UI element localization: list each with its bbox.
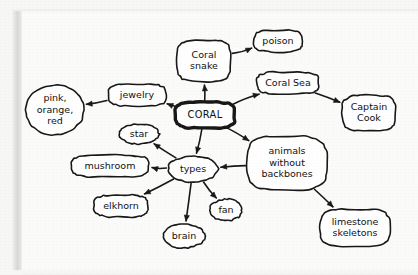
node-jewelry[interactable]: jewelry bbox=[108, 84, 166, 107]
edge-coral-to-coral_sea bbox=[233, 93, 259, 104]
arrowhead-icon bbox=[144, 189, 150, 194]
node-fan[interactable]: fan bbox=[210, 199, 242, 221]
edge-types-to-fan bbox=[204, 182, 217, 198]
node-coral[interactable]: CORAL bbox=[175, 102, 235, 129]
node-label: jewelry bbox=[119, 89, 155, 100]
arrowhead-icon bbox=[253, 93, 259, 98]
edge-coral-to-jewelry bbox=[167, 103, 175, 108]
edge-coral-to-types bbox=[196, 130, 202, 154]
node-label: poison bbox=[262, 35, 293, 46]
node-brain[interactable]: brain bbox=[163, 224, 205, 248]
arrowhead-icon bbox=[202, 85, 207, 91]
edge-coral-to-animals bbox=[227, 128, 248, 140]
node-label: Cook bbox=[357, 112, 381, 123]
node-coral_sea[interactable]: Coral Sea bbox=[256, 72, 318, 95]
node-label: limestone bbox=[332, 216, 379, 227]
edge-types-to-star bbox=[154, 144, 176, 158]
node-limestone[interactable]: limestoneskeletons bbox=[320, 209, 391, 247]
node-coral_snake[interactable]: Coralsnake bbox=[176, 40, 230, 82]
node-label: Coral Sea bbox=[265, 77, 311, 88]
edge-types-to-mushroom bbox=[152, 167, 167, 172]
node-label: fan bbox=[218, 204, 233, 215]
arrowhead-icon bbox=[221, 164, 227, 169]
node-elkhorn[interactable]: elkhorn bbox=[94, 195, 149, 218]
edge-types-to-elkhorn bbox=[144, 179, 173, 194]
node-label: animals bbox=[268, 145, 305, 156]
node-label: snake bbox=[190, 60, 218, 71]
node-label: mushroom bbox=[85, 160, 136, 171]
node-label: CORAL bbox=[187, 109, 222, 120]
concept-map-svg: CORALCoralsnakepoisonCoral SeaCaptainCoo… bbox=[0, 0, 418, 275]
node-label: without bbox=[269, 157, 305, 168]
arrowhead-icon bbox=[245, 48, 251, 53]
node-poison[interactable]: poison bbox=[253, 30, 302, 53]
edge-animals-to-limestone bbox=[315, 189, 333, 206]
arrowhead-icon bbox=[184, 215, 189, 221]
node-label: red bbox=[47, 115, 63, 126]
node-label: brain bbox=[172, 230, 196, 241]
node-label: Captain bbox=[351, 101, 388, 112]
arrowhead-icon bbox=[86, 101, 92, 106]
arrowhead-icon bbox=[196, 147, 201, 153]
node-label: Coral bbox=[192, 49, 217, 60]
node-label: star bbox=[130, 128, 148, 139]
concept-map-page: CORALCoralsnakepoisonCoral SeaCaptainCoo… bbox=[0, 0, 418, 275]
arrowhead-icon bbox=[152, 167, 158, 172]
edge-coral-to-coral_snake bbox=[202, 85, 207, 101]
node-captain[interactable]: CaptainCook bbox=[342, 95, 396, 131]
node-star[interactable]: star bbox=[119, 124, 160, 144]
arrowhead-icon bbox=[154, 144, 160, 149]
edge-types-to-brain bbox=[184, 183, 191, 221]
node-label: skeletons bbox=[333, 227, 378, 238]
node-mushroom[interactable]: mushroom bbox=[71, 155, 149, 178]
node-types[interactable]: types bbox=[168, 156, 219, 182]
arrowhead-icon bbox=[242, 135, 248, 140]
arrowhead-icon bbox=[333, 98, 339, 103]
node-label: pink, bbox=[43, 92, 66, 103]
edge-coral_sea-to-captain bbox=[315, 93, 339, 102]
edge-jewelry-to-colors bbox=[86, 101, 107, 107]
node-layer: CORALCoralsnakepoisonCoral SeaCaptainCoo… bbox=[25, 30, 395, 248]
node-label: orange, bbox=[37, 104, 73, 115]
node-label: types bbox=[180, 163, 206, 174]
node-animals[interactable]: animalswithoutbackbones bbox=[247, 136, 328, 191]
arrowhead-icon bbox=[167, 103, 173, 108]
edge-animals-to-types bbox=[221, 164, 246, 169]
node-label: elkhorn bbox=[103, 200, 139, 211]
node-colors[interactable]: pink,orange,red bbox=[25, 85, 84, 135]
edge-coral_snake-to-poison bbox=[232, 48, 251, 53]
node-label: backbones bbox=[261, 168, 312, 179]
